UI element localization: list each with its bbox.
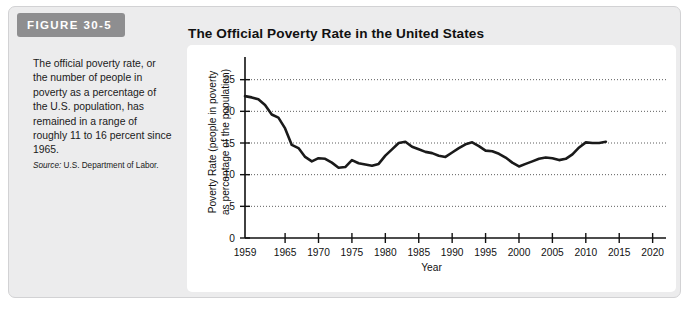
x-tick-label-2005: 2005 [541,247,564,258]
y-axis-label: Poverty Rate (people in poverty as perce… [193,0,219,59]
source-text: U.S. Department of Labor. [61,161,158,170]
y-axis-label-line1: Poverty Rate (people in poverty [207,57,220,227]
x-tick-label-2000: 2000 [508,247,531,258]
x-tick-label-1990: 1990 [441,247,464,258]
y-axis-label-line2: as percentage of the population) [220,57,233,227]
x-tick-label-2010: 2010 [574,247,597,258]
figure-source: Source: U.S. Department of Labor. [33,161,178,170]
figure-badge: FIGURE 30-5 [17,13,125,37]
x-tick-label-1959: 1959 [234,247,257,258]
x-tick-label-1980: 1980 [374,247,397,258]
figure-caption: The official poverty rate, or the number… [33,57,173,158]
x-tick-label-2020: 2020 [641,247,664,258]
x-tick-label-1970: 1970 [307,247,330,258]
figure-badge-label: FIGURE 30-5 [17,19,112,31]
plot-area: 0510152025195919651970197519801985199019… [187,45,676,292]
x-tick-label-2015: 2015 [608,247,631,258]
x-tick-label-1995: 1995 [474,247,497,258]
source-label: Source: [33,161,61,170]
series-line-0 [245,96,606,168]
x-tick-label-1975: 1975 [341,247,364,258]
chart-card: 0510152025195919651970197519801985199019… [187,45,676,292]
x-axis-label: Year [187,262,676,273]
poverty-rate-line-chart: 0510152025195919651970197519801985199019… [187,45,676,292]
figure-panel: FIGURE 30-5 The official poverty rate, o… [8,6,681,298]
chart-title: The Official Poverty Rate in the United … [188,26,484,41]
x-tick-label-1965: 1965 [274,247,297,258]
y-tick-label-0: 0 [229,233,235,244]
x-tick-label-1985: 1985 [407,247,430,258]
